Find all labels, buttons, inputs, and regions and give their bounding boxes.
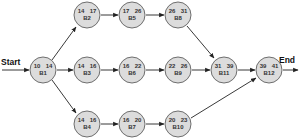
node-b12: 39 41 B12 (256, 57, 282, 83)
node-b9-ef: 26 (181, 63, 188, 69)
node-b8-ef: 31 (181, 8, 188, 14)
node-b1-ef: 14 (46, 63, 53, 69)
node-b7: 16 20 B7 (119, 111, 145, 137)
node-b2-es: 14 (78, 8, 85, 14)
node-b8-es: 26 (169, 8, 176, 14)
node-b3-ef: 16 (90, 63, 97, 69)
node-b12-ef: 41 (272, 63, 279, 69)
node-b10-es: 20 (169, 117, 176, 123)
node-b5-es: 17 (123, 8, 130, 14)
node-b9: 22 26 B9 (165, 57, 191, 83)
start-label: Start (1, 57, 21, 67)
node-b10-name: B10 (172, 124, 184, 130)
node-b4-name: B4 (83, 124, 91, 130)
edge-b1-b4 (52, 80, 76, 113)
node-b4: 14 16 B4 (74, 111, 100, 137)
end-label: End (279, 55, 295, 65)
node-b7-name: B7 (128, 124, 136, 130)
node-b3-name: B3 (83, 70, 91, 76)
node-b11-es: 31 (215, 63, 222, 69)
node-b6-es: 16 (123, 63, 130, 69)
node-b10: 20 23 B10 (165, 111, 191, 137)
node-b10-ef: 23 (181, 117, 188, 123)
node-b11-name: B11 (219, 70, 230, 76)
node-b1-name: B1 (39, 70, 47, 76)
node-b1-es: 10 (34, 63, 41, 69)
node-b11-ef: 39 (227, 63, 234, 69)
node-b3-es: 14 (78, 63, 85, 69)
node-b3: 14 16 B3 (74, 57, 100, 83)
node-b4-es: 14 (78, 117, 85, 123)
node-b9-name: B9 (174, 70, 182, 76)
edge-b8-b11 (187, 26, 214, 58)
node-b2-name: B2 (83, 15, 91, 21)
node-b9-es: 22 (169, 63, 176, 69)
node-b2: 14 17 B2 (74, 2, 100, 28)
node-b6-name: B6 (128, 70, 136, 76)
node-b12-name: B12 (263, 70, 275, 76)
node-b4-ef: 16 (90, 117, 97, 123)
node-b7-ef: 20 (135, 117, 142, 123)
node-b11: 31 39 B11 (211, 57, 237, 83)
node-b5-name: B5 (128, 15, 136, 21)
node-b1: 10 14 B1 (30, 57, 56, 83)
node-b12-es: 39 (260, 63, 267, 69)
node-b7-es: 16 (123, 117, 130, 123)
edge-b1-b2 (52, 27, 76, 60)
edge-b10-b12 (191, 78, 256, 118)
node-b8-name: B8 (174, 15, 182, 21)
node-b6-ef: 22 (135, 63, 142, 69)
network-diagram: Start End 10 14 B1 14 17 B2 14 16 B3 14 … (0, 0, 299, 138)
node-b2-ef: 17 (90, 8, 97, 14)
node-b5-ef: 26 (135, 8, 142, 14)
node-b6: 16 22 B6 (119, 57, 145, 83)
node-b8: 26 31 B8 (165, 2, 191, 28)
node-b5: 17 26 B5 (119, 2, 145, 28)
